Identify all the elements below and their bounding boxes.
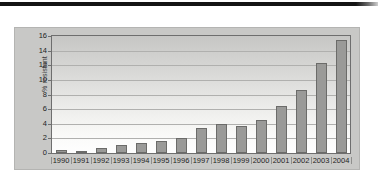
y-tick-mark [48,138,51,139]
x-tick-separator [251,157,252,164]
y-tick-mark [48,65,51,66]
bar [196,128,207,153]
y-tick-mark [48,109,51,110]
bar [296,90,307,153]
bar [116,145,127,153]
x-tick-label: 1994 [130,156,152,166]
bar [236,126,247,153]
x-tick-label: 1995 [150,156,172,166]
x-tick-separator [131,157,132,164]
x-tick-label: 1996 [170,156,192,166]
x-tick-separator [231,157,232,164]
y-tick-mark [48,124,51,125]
y-tick-mark [48,95,51,96]
bar [56,150,67,153]
x-tick-label: 2004 [330,156,352,166]
x-tick-separator [171,157,172,164]
x-tick-label: 2001 [270,156,292,166]
y-tick-label: 14 [31,47,47,55]
x-tick-label: 2002 [290,156,312,166]
x-tick-label: 1992 [90,156,112,166]
bar [136,143,147,153]
x-tick-label: 1999 [230,156,252,166]
bar [336,40,347,153]
x-tick-separator [271,157,272,164]
gridline [52,65,350,66]
bar [176,138,187,153]
y-tick-mark [48,153,51,154]
y-tick-label: 16 [31,32,47,40]
x-tick-separator [151,157,152,164]
x-tick-separator [51,157,52,164]
y-tick-mark [48,36,51,37]
y-tick-label: 8 [31,91,47,99]
gridline [52,80,350,81]
x-tick-label: 1991 [70,156,92,166]
bar [76,151,87,153]
x-tick-separator [331,157,332,164]
y-tick-mark [48,80,51,81]
top-divider-rule [0,2,378,6]
y-tick-label: 10 [31,76,47,84]
x-tick-separator [211,157,212,164]
x-tick-label: 1997 [190,156,212,166]
x-tick-separator [71,157,72,164]
bar [256,120,267,153]
bar [216,124,227,153]
x-tick-separator [311,157,312,164]
y-tick-label: 2 [31,134,47,142]
bar [316,63,327,153]
y-tick-label: 4 [31,120,47,128]
plot-area: 0246810121416 [51,35,351,154]
y-tick-label: 12 [31,61,47,69]
x-tick-label: 2000 [250,156,272,166]
x-tick-separator [291,157,292,164]
x-tick-separator [191,157,192,164]
bar [276,106,287,153]
x-tick-label: 1990 [50,156,72,166]
bar [156,141,167,153]
chart-figure-panel: % resistant 0246810121416 19901991199219… [14,27,360,170]
x-axis-labels: 1990199119921993199419951996199719981999… [51,156,351,168]
x-tick-label: 2003 [310,156,332,166]
x-tick-separator [111,157,112,164]
x-tick-separator [351,157,352,164]
x-tick-separator [91,157,92,164]
y-tick-label: 6 [31,105,47,113]
top-divider-rule-taper [356,2,378,6]
x-tick-label: 1993 [110,156,132,166]
y-tick-label: 0 [31,149,47,157]
y-tick-mark [48,51,51,52]
bar [96,148,107,153]
x-tick-label: 1998 [210,156,232,166]
gridline [52,51,350,52]
